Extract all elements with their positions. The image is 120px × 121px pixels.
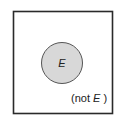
event-label: E [58,57,66,69]
complement-label-prefix: (not [71,92,93,104]
complement-label-suffix: ) [100,92,107,104]
complement-label: (not E ) [71,92,107,104]
venn-diagram: E (not E ) [0,0,120,121]
